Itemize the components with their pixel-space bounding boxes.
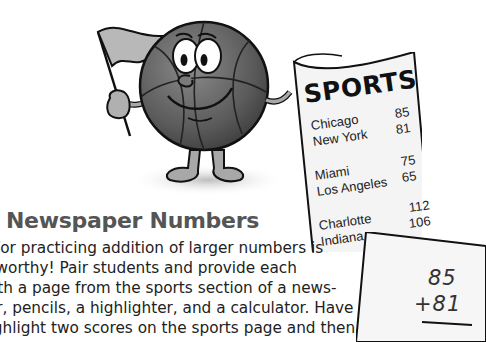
body-line: For practicing addition of larger number… [0, 238, 322, 258]
score: 75 [400, 152, 416, 169]
addition-worksheet-card [356, 232, 486, 342]
worksheet-top-number: 85 [428, 266, 457, 290]
basketball-mascot-illustration [80, 0, 300, 210]
score: 106 [408, 213, 432, 231]
score: 85 [394, 104, 410, 121]
score: 65 [401, 168, 417, 185]
article-heading: Newspaper Numbers [6, 208, 259, 233]
worksheet-bottom-number: +81 [414, 292, 461, 316]
body-line: pair with a page from the sports section… [0, 278, 322, 298]
article-body: For practicing addition of larger number… [0, 238, 322, 338]
body-line: newsworthy! Pair students and provide ea… [0, 258, 322, 278]
body-line: paper, pencils, a highlighter, and a cal… [0, 298, 322, 318]
body-line: them highlight two scores on the sports … [0, 318, 322, 338]
score: 81 [395, 120, 411, 137]
